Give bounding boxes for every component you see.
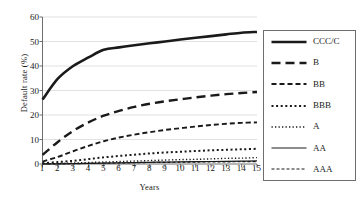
legend-line-swatch	[271, 163, 307, 175]
legend-line-swatch	[271, 78, 307, 90]
x-tick-label: 6	[116, 164, 121, 173]
legend-item-label: B	[313, 58, 319, 67]
x-tick-label: 11	[191, 164, 200, 173]
legend-item-b[interactable]: B	[264, 54, 355, 72]
legend-line-swatch	[271, 57, 307, 69]
legend-item-bb[interactable]: BB	[264, 75, 355, 93]
x-tick-label: 12	[206, 164, 215, 173]
default-rate-chart: 0102030405060 123456789101112131415 Defa…	[0, 0, 363, 204]
legend-line-swatch	[271, 100, 307, 112]
legend-item-label: CCC/C	[313, 37, 340, 46]
legend-item-a[interactable]: A	[264, 118, 355, 136]
y-axis-title: Default rate (%)	[19, 13, 29, 153]
legend-line-swatch	[271, 36, 307, 48]
x-tick-label: 9	[162, 164, 167, 173]
legend-item-ccc-c[interactable]: CCC/C	[264, 33, 355, 51]
chart-legend: CCC/CBBBBBBAAAAAA	[263, 30, 356, 181]
x-tick-label: 15	[252, 164, 261, 173]
legend-item-label: BB	[313, 80, 325, 89]
legend-item-aaa[interactable]: AAA	[264, 160, 355, 178]
x-tick-label: 4	[86, 164, 91, 173]
legend-line-swatch	[271, 121, 307, 133]
legend-item-label: AA	[313, 144, 326, 153]
x-tick-label: 10	[175, 164, 184, 173]
x-tick-label: 7	[132, 164, 137, 173]
x-tick-label: 13	[221, 164, 230, 173]
legend-line-swatch	[271, 142, 307, 154]
x-tick-label: 5	[101, 164, 106, 173]
x-tick-label: 2	[55, 164, 60, 173]
x-tick-label: 1	[40, 164, 45, 173]
x-axis-title: Years	[42, 182, 257, 192]
legend-item-label: A	[313, 122, 320, 131]
legend-item-label: BBB	[313, 101, 331, 110]
x-axis-tick-labels: 123456789101112131415	[42, 0, 257, 204]
x-tick-label: 8	[147, 164, 152, 173]
x-tick-label: 14	[237, 164, 246, 173]
legend-item-label: AAA	[313, 165, 333, 174]
y-tick-label: 0	[24, 160, 39, 169]
legend-item-aa[interactable]: AA	[264, 139, 355, 157]
x-tick-label: 3	[70, 164, 75, 173]
legend-item-bbb[interactable]: BBB	[264, 97, 355, 115]
